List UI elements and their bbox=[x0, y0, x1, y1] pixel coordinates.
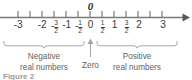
tick-label-neg-one-half: - 1 2 bbox=[75, 20, 82, 34]
zero-label-line1: Zero bbox=[82, 61, 99, 72]
negative-real-numbers-label: Negative real numbers bbox=[20, 52, 68, 73]
tick-label-neg3: -3 bbox=[14, 20, 23, 30]
tick-three-halves-fraction: 3 2 bbox=[124, 20, 128, 34]
tick-label-one-half: 1 2 bbox=[100, 20, 104, 34]
positive-real-numbers-label: Positive real numbers bbox=[113, 52, 161, 73]
denominator: 2 bbox=[100, 28, 104, 35]
negative-label-line2: real numbers bbox=[20, 63, 68, 74]
tick-label-one: 1 bbox=[112, 20, 117, 30]
axis-arrowhead-right-icon bbox=[183, 14, 191, 22]
tick-label-zero-text: 0 bbox=[88, 19, 93, 30]
denominator: 2 bbox=[54, 28, 58, 35]
tick-label-neg1: -1 bbox=[62, 20, 71, 30]
denominator: 2 bbox=[124, 28, 128, 35]
tick-label-neg2-text: -2 bbox=[38, 19, 47, 30]
tick-label-three: 3 bbox=[160, 20, 165, 30]
negative-brace bbox=[4, 41, 84, 48]
tick-neg-one-half-fraction: 1 2 bbox=[78, 20, 82, 34]
tick-label-neg1-text: -1 bbox=[62, 19, 71, 30]
positive-label-line2: real numbers bbox=[113, 63, 161, 74]
negative-label-line1: Negative bbox=[20, 52, 68, 63]
zero-annotation-label: Zero bbox=[82, 61, 99, 72]
figure-caption: Figure 2 bbox=[3, 73, 34, 80]
tick-label-zero: 0 bbox=[88, 20, 93, 30]
number-line-figure: 0 -3 -2 - 3 2 -1 - 1 2 0 1 2 1 3 2 bbox=[0, 0, 192, 80]
tick-neg-three-halves-fraction: 3 2 bbox=[54, 20, 58, 34]
tick-label-neg3-text: -3 bbox=[14, 19, 23, 30]
tick-one-half-fraction: 1 2 bbox=[100, 20, 104, 34]
tick-label-neg2: -2 bbox=[38, 20, 47, 30]
positive-label-line1: Positive bbox=[113, 52, 161, 63]
tick-label-neg-three-halves: - 3 2 bbox=[51, 20, 58, 34]
zero-pointer-icon bbox=[88, 39, 94, 57]
tick-label-two: 2 bbox=[136, 20, 141, 30]
zero-top-marker: 0 bbox=[88, 1, 94, 12]
tick-label-three-text: 3 bbox=[160, 19, 165, 30]
positive-brace bbox=[97, 41, 177, 48]
tick-label-one-text: 1 bbox=[112, 19, 117, 30]
tick-label-three-halves: 3 2 bbox=[124, 20, 128, 34]
tick-label-two-text: 2 bbox=[136, 19, 141, 30]
denominator: 2 bbox=[78, 28, 82, 35]
